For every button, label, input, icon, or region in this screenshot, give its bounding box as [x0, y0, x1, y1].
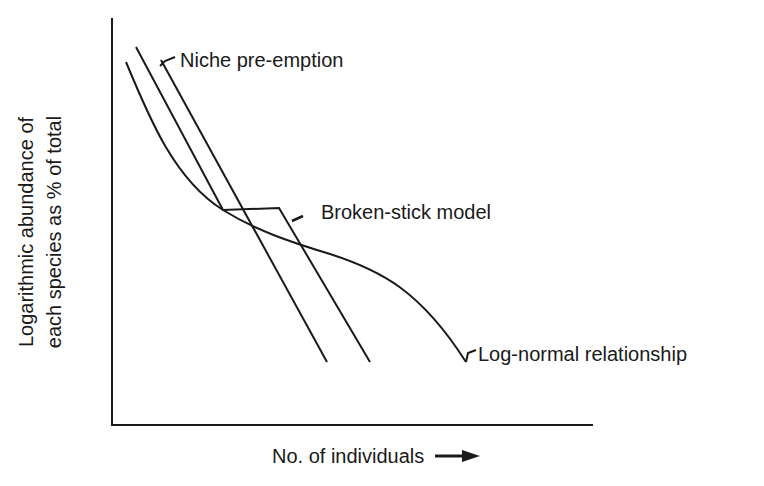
right-arrow-icon — [435, 450, 480, 462]
niche-preemption-label: Niche pre-emption — [180, 50, 343, 70]
broken-stick-label: Broken-stick model — [321, 202, 491, 222]
broken-stick-leader-tick — [292, 216, 303, 221]
diagram-canvas — [0, 0, 764, 486]
y-axis-label-line1: Logarithmic abundance of — [12, 116, 40, 348]
x-axis-label: No. of individuals — [272, 446, 424, 466]
log-normal-label: Log-normal relationship — [478, 344, 687, 364]
niche-preemption-line — [161, 60, 327, 362]
y-axis-label: Logarithmic abundance of each species as… — [0, 0, 80, 486]
lognormal-leader-tick — [466, 350, 476, 362]
y-axis-label-line2: each species as % of total — [40, 116, 68, 348]
